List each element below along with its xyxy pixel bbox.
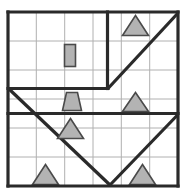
grid-puzzle-diagram [0,0,181,193]
piece-rectangle-r2c3 [65,45,76,67]
grid-lines [8,12,178,186]
piece-triangle-r1c5 [123,16,149,36]
piece-triangle-r6c5 [130,165,156,185]
puzzle-canvas [0,0,181,193]
piece-trapezoid-r4c3 [63,93,82,111]
diagonal-top-right-rising [108,13,178,89]
piece-triangle-r4c5 [123,93,149,112]
